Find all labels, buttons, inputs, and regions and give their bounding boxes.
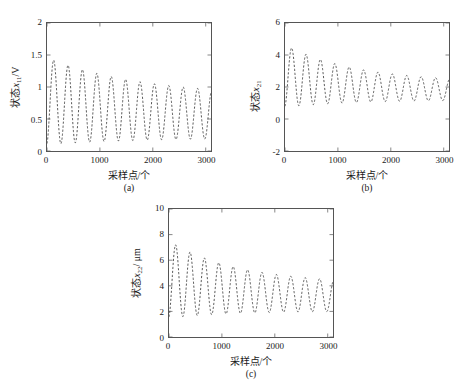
panel-c: 10 8 6 4 2 0 0 1000 2000 3000 状态x22/ μm …: [110, 196, 360, 386]
yaxis-title-b-prefix: 状态: [250, 92, 261, 112]
caption-b: (b): [361, 183, 372, 194]
ytick-c-4: 2: [142, 308, 164, 317]
figure-root: 2 1.5 1 0.5 0 0 1000 2000 3000 状态x11/V 采…: [0, 0, 475, 386]
ytick-b-1: 4: [260, 50, 280, 59]
yaxis-title-c-suffix: / μm: [131, 248, 142, 266]
plot-area-a: [46, 22, 212, 152]
waveform-b: [285, 23, 449, 151]
xtick-b-3: 3000: [436, 156, 454, 165]
yaxis-title-c-sub: 22: [136, 267, 143, 274]
xtick-b-2: 2000: [382, 156, 400, 165]
caption-c: (c): [246, 369, 257, 380]
ytick-b-0: 6: [260, 18, 280, 27]
ytick-b-3: 0: [260, 115, 280, 124]
xtick-c-0: 0: [166, 342, 171, 351]
panel-b: 6 4 2 0 -2 0 1000 2000 3000 状态x21 采样点/个 …: [240, 0, 475, 200]
ytick-b-4: -2: [256, 148, 280, 157]
ytick-a-1: 1.5: [20, 50, 42, 59]
yaxis-title-a-prefix: 状态: [10, 88, 21, 108]
xaxis-title-a: 采样点/个: [108, 170, 151, 182]
yaxis-title-a: 状态x11/V: [10, 67, 24, 108]
xaxis-title-b: 采样点/个: [346, 170, 389, 182]
plot-area-c: [168, 208, 334, 338]
xtick-a-0: 0: [44, 156, 49, 165]
xtick-a-1: 1000: [91, 156, 109, 165]
yaxis-title-a-suffix: /V: [10, 67, 21, 77]
ytick-c-5: 0: [142, 334, 164, 343]
waveform-a: [47, 23, 211, 151]
yaxis-title-b-sub: 21: [255, 80, 262, 87]
xtick-a-3: 3000: [198, 156, 216, 165]
ytick-a-3: 0.5: [20, 115, 42, 124]
caption-a: (a): [124, 183, 135, 194]
ytick-a-4: 0: [20, 148, 42, 157]
xtick-a-2: 2000: [144, 156, 162, 165]
xtick-c-2: 2000: [266, 342, 284, 351]
plot-area-b: [284, 22, 450, 152]
yaxis-title-a-var: x: [10, 83, 21, 87]
xtick-c-1: 1000: [213, 342, 231, 351]
ytick-c-0: 10: [142, 204, 164, 213]
yaxis-title-c-prefix: 状态: [131, 278, 142, 298]
yaxis-title-c-var: x: [131, 273, 142, 277]
panel-a: 2 1.5 1 0.5 0 0 1000 2000 3000 状态x11/V 采…: [0, 0, 240, 200]
xtick-b-1: 1000: [329, 156, 347, 165]
yaxis-title-b: 状态x21: [250, 80, 264, 111]
yaxis-title-b-var: x: [250, 87, 261, 91]
yaxis-title-c: 状态x22/ μm: [131, 248, 145, 298]
waveform-c: [169, 209, 333, 337]
xtick-c-3: 3000: [320, 342, 338, 351]
ytick-c-1: 8: [142, 230, 164, 239]
xaxis-title-c: 采样点/个: [230, 356, 273, 368]
ytick-c-2: 6: [142, 256, 164, 265]
yaxis-title-a-sub: 11: [15, 77, 22, 84]
xtick-b-0: 0: [282, 156, 287, 165]
ytick-c-3: 4: [142, 282, 164, 291]
ytick-a-0: 2: [20, 18, 42, 27]
